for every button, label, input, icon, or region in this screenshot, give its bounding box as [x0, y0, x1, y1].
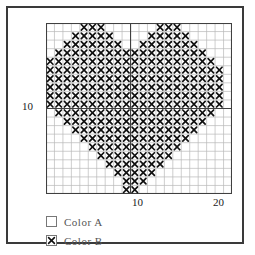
- legend-item-color-b[interactable]: Color B: [46, 231, 103, 250]
- y-axis-tick-10: 10: [22, 100, 33, 112]
- pattern-grid[interactable]: [46, 23, 232, 194]
- x-axis-tick-10: 10: [132, 196, 143, 208]
- legend-label-color-a: Color A: [64, 216, 103, 228]
- legend-item-color-a[interactable]: Color A: [46, 212, 103, 231]
- swatch-cross-icon: [46, 235, 57, 246]
- legend-label-color-b: Color B: [64, 235, 103, 247]
- legend: Color A Color B: [46, 212, 103, 250]
- chart-frame: 10 10 20 Color A Color B: [6, 6, 244, 244]
- swatch-empty-icon: [46, 216, 57, 227]
- x-axis-tick-20: 20: [213, 196, 224, 208]
- cross-stitch-chart[interactable]: [46, 23, 232, 194]
